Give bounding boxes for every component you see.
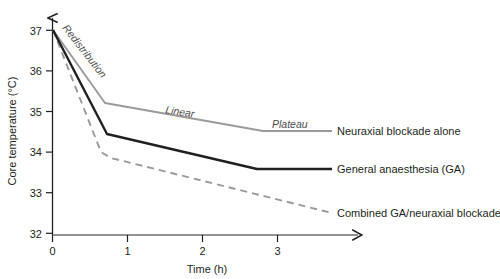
y-tick-label-35: 35 [30,106,42,118]
series-label-neuraxial-blockade-alone: Neuraxial blockade alone [337,125,461,137]
x-tick-label-2: 2 [199,245,205,257]
phase-label-linear: Linear [165,103,196,119]
y-tick-label-32: 32 [30,228,42,240]
core-temperature-line-chart: 37 36 35 34 33 32 0 1 2 3 Time (h) Core … [0,0,500,279]
x-axis-ticks: 0 1 2 3 [49,235,280,257]
y-axis-title: Core temperature (°C) [6,77,18,186]
chart-figure: 37 36 35 34 33 32 0 1 2 3 Time (h) Core … [0,0,500,279]
series-label-general-anaesthesia: General anaesthesia (GA) [337,163,465,175]
phase-label-plateau: Plateau [272,118,308,130]
x-tick-label-1: 1 [124,245,130,257]
axes-group [53,18,359,235]
y-tick-label-37: 37 [30,25,42,37]
x-axis-title: Time (h) [187,263,228,275]
series-label-combined-ga-neuraxial-blockade: Combined GA/neuraxial blockade [337,207,500,219]
y-tick-label-36: 36 [30,65,42,77]
y-tick-label-33: 33 [30,187,42,199]
series-line-general-anaesthesia [53,30,332,169]
x-tick-label-0: 0 [49,245,55,257]
x-tick-label-3: 3 [274,245,280,257]
y-axis-ticks: 37 36 35 34 33 32 [30,25,53,240]
y-tick-label-34: 34 [30,146,42,158]
